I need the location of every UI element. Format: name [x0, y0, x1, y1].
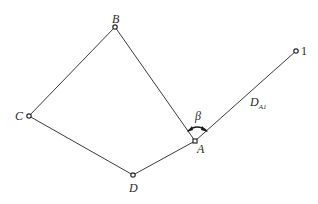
- edge-C-D: [29, 116, 133, 175]
- label-D: D: [129, 182, 138, 194]
- distance-main: D: [250, 95, 259, 109]
- label-C: C: [15, 110, 23, 122]
- diagram-canvas: [0, 0, 318, 204]
- label-B: B: [112, 13, 119, 25]
- label-1: 1: [301, 45, 307, 57]
- point-C-marker: [27, 114, 31, 118]
- edge-B-C: [29, 27, 115, 116]
- label-distance-A1: DA1: [250, 96, 266, 111]
- edge-A-1: [195, 51, 296, 141]
- label-beta: β: [195, 110, 201, 122]
- edge-A-B: [115, 27, 195, 141]
- angle-beta-arc: [187, 126, 208, 132]
- point-D-marker: [131, 173, 135, 177]
- traverse-diagram: B C D A 1 β DA1: [0, 0, 318, 204]
- point-1-marker: [294, 49, 298, 53]
- label-A: A: [197, 143, 204, 155]
- edge-D-A: [133, 141, 195, 175]
- distance-subscript: A1: [259, 103, 267, 111]
